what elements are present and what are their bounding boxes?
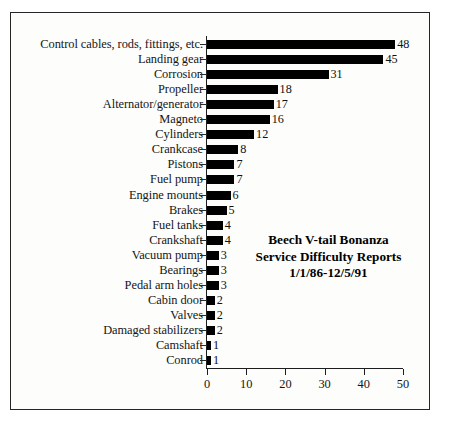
bar [207,281,219,290]
bar [207,221,223,230]
chart-title-line-3: 1/1/86-12/5/91 [236,265,421,282]
chart-title: Beech V-tail Bonanza Service Difficulty … [236,232,421,282]
category-label: Damaged stabilizers [103,323,203,338]
bar-value-label: 4 [223,233,231,248]
figure: Control cables, rods, fittings, etc.48La… [0,0,449,424]
bar [207,311,215,320]
category-label: Cylinders [155,127,203,142]
bar [207,191,231,200]
x-axis-tick-label: 50 [383,377,423,392]
bar [207,236,223,245]
y-axis-tick [200,315,207,316]
y-axis-tick [200,74,207,75]
category-label: Fuel pump [150,172,203,187]
x-axis-tick [246,369,247,375]
bar [207,115,270,124]
y-axis-tick [200,164,207,165]
bar [207,251,219,260]
bar-row: Corrosion31 [0,67,449,82]
bar-value-label: 6 [231,188,239,203]
bar-value-label: 31 [329,67,343,82]
bar-value-label: 16 [270,112,284,127]
category-label: Conrod [166,353,203,368]
bar [207,70,329,79]
bar-value-label: 2 [215,323,223,338]
bar-row: Camshaft1 [0,338,449,353]
y-axis-tick [200,179,207,180]
category-label: Fuel tanks [152,218,203,233]
bar [207,130,254,139]
y-axis-tick [200,195,207,196]
bar-row: Landing gear45 [0,52,449,67]
category-label: Alternator/generator [103,97,203,112]
y-axis-tick [200,255,207,256]
bar [207,206,227,215]
y-axis-tick [200,104,207,105]
category-label: Engine mounts [129,188,203,203]
bar [207,175,234,184]
y-axis-tick [200,59,207,60]
y-axis-tick [200,149,207,150]
bar [207,100,274,109]
x-axis-tick [285,369,286,375]
x-axis-line [207,368,403,369]
category-label: Valves [170,308,203,323]
y-axis-tick [200,134,207,135]
chart-title-line-1: Beech V-tail Bonanza [236,232,421,249]
bar-chart-plot-area: Control cables, rods, fittings, etc.48La… [0,0,449,424]
x-axis-tick [325,369,326,375]
category-label: Crankshaft [149,233,203,248]
x-axis-tick-label: 40 [344,377,384,392]
bar-row: Fuel pump7 [0,172,449,187]
bar-row: Valves2 [0,308,449,323]
bar-value-label: 2 [215,293,223,308]
chart-title-line-2: Service Difficulty Reports [236,249,421,266]
bar-row: Cylinders12 [0,127,449,142]
bar-row: Brakes5 [0,203,449,218]
bar-value-label: 3 [219,278,227,293]
bar-value-label: 7 [234,172,242,187]
bar [207,55,383,64]
y-axis-tick [200,89,207,90]
y-axis-tick [200,270,207,271]
x-axis-tick-label: 0 [187,377,227,392]
bar-row: Magneto16 [0,112,449,127]
category-label: Corrosion [154,67,203,82]
category-label: Crankcase [152,142,203,157]
bar-row: Propeller18 [0,82,449,97]
y-axis-tick [200,240,207,241]
y-axis-tick [200,360,207,361]
category-label: Vacuum pump [132,248,203,263]
y-axis-tick [200,330,207,331]
category-label: Landing gear [138,52,203,67]
bar-row: Cabin door2 [0,293,449,308]
bar-value-label: 17 [274,97,288,112]
bar-value-label: 12 [254,127,268,142]
bar-value-label: 8 [238,142,246,157]
x-axis-tick [403,369,404,375]
bar-row: Alternator/generator17 [0,97,449,112]
bar-value-label: 5 [227,203,235,218]
bar-value-label: 45 [383,52,397,67]
bar [207,145,238,154]
bar-value-label: 18 [278,82,292,97]
x-axis-tick-label: 10 [226,377,266,392]
category-label: Cabin door [148,293,203,308]
x-axis-tick-label: 30 [305,377,345,392]
y-axis-tick [200,345,207,346]
bar-row: Pistons7 [0,157,449,172]
y-axis-tick [200,210,207,211]
y-axis-tick [200,300,207,301]
bar-value-label: 2 [215,308,223,323]
bar-row: Conrod1 [0,353,449,368]
x-axis-tick [364,369,365,375]
category-label: Magneto [159,112,203,127]
bar-row: Damaged stabilizers2 [0,323,449,338]
y-axis-tick [200,285,207,286]
x-axis-tick-label: 20 [265,377,305,392]
bar-row: Crankcase8 [0,142,449,157]
category-label: Bearings [159,263,203,278]
y-axis-tick [200,44,207,45]
bar-row: Engine mounts6 [0,188,449,203]
bar-value-label: 4 [223,218,231,233]
